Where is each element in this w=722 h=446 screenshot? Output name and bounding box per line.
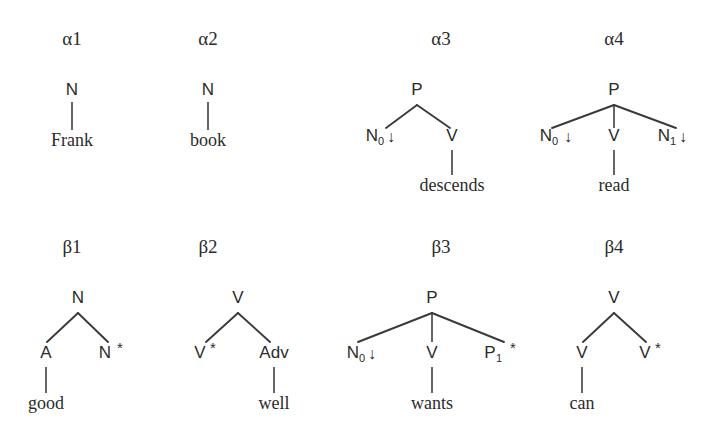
tree-name-beta4: β4 xyxy=(604,236,624,257)
edge-root-to-right xyxy=(614,105,676,128)
tree-alpha3: α3 P N 0 ↓ V descends xyxy=(366,28,485,195)
tree-name-alpha4: α4 xyxy=(604,28,624,49)
node-label-v: V xyxy=(194,343,206,362)
terminal-alpha2: book xyxy=(190,130,226,150)
edge-root-to-left xyxy=(552,105,614,128)
tree-beta4: β4 V V V * can xyxy=(570,236,662,413)
node-subscript-1: 1 xyxy=(496,352,502,364)
node-adv-beta2: Adv xyxy=(259,343,289,362)
edge-root-to-right xyxy=(417,105,450,128)
edge-root-to-left xyxy=(358,313,432,342)
edge-root-to-right xyxy=(614,313,646,342)
node-v-alpha3: V xyxy=(446,126,458,145)
terminal-alpha1: Frank xyxy=(51,130,93,150)
node-subscript-1: 1 xyxy=(670,135,676,147)
node-substitution-n1-alpha4: N 1 ↓ xyxy=(658,126,687,147)
edge-root-to-left xyxy=(386,105,417,128)
terminal-alpha4: read xyxy=(599,175,630,195)
terminal-beta1: good xyxy=(28,393,64,413)
foot-star-icon: * xyxy=(510,339,516,356)
node-label-p: P xyxy=(484,343,495,362)
foot-star-icon: * xyxy=(655,339,661,356)
node-v-beta4: V xyxy=(576,343,588,362)
node-root-beta1: N xyxy=(72,288,84,307)
node-subscript-0: 0 xyxy=(552,135,558,147)
node-root-alpha3: P xyxy=(411,80,422,99)
node-root-alpha2: N xyxy=(202,80,214,99)
down-arrow-icon: ↓ xyxy=(564,128,572,145)
node-a-beta1: A xyxy=(40,343,52,362)
node-subscript-0: 0 xyxy=(378,135,384,147)
tree-beta1: β1 N A N * good xyxy=(28,236,123,413)
node-label-n: N xyxy=(347,343,359,362)
tree-beta2: β2 V V * Adv well xyxy=(194,236,289,413)
tree-alpha2: α2 N book xyxy=(190,28,226,150)
edge-root-to-right xyxy=(78,313,108,342)
node-label-n: N xyxy=(99,343,111,362)
edge-root-to-right xyxy=(432,313,504,342)
node-root-beta3: P xyxy=(426,288,437,307)
node-substitution-n0-alpha4: N 0 ↓ xyxy=(540,126,572,147)
node-root-alpha1: N xyxy=(66,80,78,99)
edge-root-to-right xyxy=(238,313,270,342)
terminal-alpha3: descends xyxy=(420,175,485,195)
terminal-beta3: wants xyxy=(411,393,453,413)
edge-root-to-left xyxy=(47,313,78,342)
down-arrow-icon: ↓ xyxy=(368,345,376,362)
node-label-n: N xyxy=(658,126,670,145)
tag-elementary-trees-figure: α1 N Frank α2 N book α3 P N 0 ↓ V descen… xyxy=(0,0,722,446)
node-v-alpha4: V xyxy=(608,126,620,145)
foot-star-icon: * xyxy=(210,339,216,356)
node-foot-p1-beta3: P 1 * xyxy=(484,339,516,364)
tree-beta3: β3 P N 0 ↓ V P 1 * wants xyxy=(347,236,516,413)
node-root-alpha4: P xyxy=(608,80,619,99)
terminal-beta2: well xyxy=(259,393,290,413)
tree-name-alpha2: α2 xyxy=(198,28,217,49)
node-substitution-n0-beta3: N 0 ↓ xyxy=(347,343,376,364)
tree-diagram-canvas: α1 N Frank α2 N book α3 P N 0 ↓ V descen… xyxy=(0,0,722,446)
tree-name-beta1: β1 xyxy=(62,236,81,257)
node-label-v: V xyxy=(639,343,651,362)
edge-root-to-left xyxy=(583,313,614,342)
tree-name-alpha3: α3 xyxy=(431,28,450,49)
node-subscript-0: 0 xyxy=(359,352,365,364)
edge-root-to-left xyxy=(206,313,238,342)
terminal-beta4: can xyxy=(570,393,595,413)
tree-name-alpha1: α1 xyxy=(62,28,81,49)
down-arrow-icon: ↓ xyxy=(679,128,687,145)
foot-star-icon: * xyxy=(117,339,123,356)
node-root-beta2: V xyxy=(232,288,244,307)
node-v-beta3: V xyxy=(426,343,438,362)
down-arrow-icon: ↓ xyxy=(387,128,395,145)
tree-alpha4: α4 P N 0 ↓ V N 1 ↓ read xyxy=(540,28,687,195)
node-label-n: N xyxy=(366,126,378,145)
node-label-n: N xyxy=(540,126,552,145)
tree-alpha1: α1 N Frank xyxy=(51,28,93,150)
node-foot-v-beta4: V * xyxy=(639,339,661,362)
node-substitution-n0-alpha3: N 0 ↓ xyxy=(366,126,395,147)
node-root-beta4: V xyxy=(608,288,620,307)
node-foot-v-beta2: V * xyxy=(194,339,216,362)
tree-name-beta2: β2 xyxy=(198,236,217,257)
node-foot-n-beta1: N * xyxy=(99,339,123,362)
tree-name-beta3: β3 xyxy=(431,236,450,257)
